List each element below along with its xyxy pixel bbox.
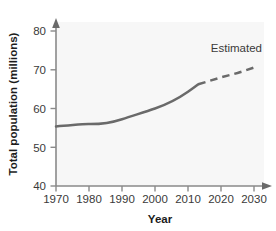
x-tick-label-2010: 2010 [175, 193, 201, 205]
y-tick-label-60: 60 [33, 103, 46, 115]
estimated-annotation: Estimated [211, 42, 262, 54]
population-line-chart: 40 50 60 70 80 1970 1980 1990 2000 2010 … [0, 0, 276, 231]
x-tick-label-2000: 2000 [142, 193, 168, 205]
x-tick-label-1970: 1970 [43, 193, 69, 205]
x-axis-tick-labels: 1970 1980 1990 2000 2010 2020 2030 [43, 193, 267, 205]
y-tick-label-40: 40 [33, 180, 46, 192]
y-tick-label-80: 80 [33, 25, 46, 37]
y-tick-label-50: 50 [33, 142, 46, 154]
x-tick-label-1980: 1980 [76, 193, 102, 205]
x-axis-title: Year [148, 213, 173, 225]
y-tick-label-70: 70 [33, 64, 46, 76]
x-tick-label-1990: 1990 [109, 193, 135, 205]
x-tick-label-2020: 2020 [208, 193, 234, 205]
y-axis-title: Total population (millions) [7, 32, 19, 175]
x-tick-label-2030: 2030 [241, 193, 267, 205]
